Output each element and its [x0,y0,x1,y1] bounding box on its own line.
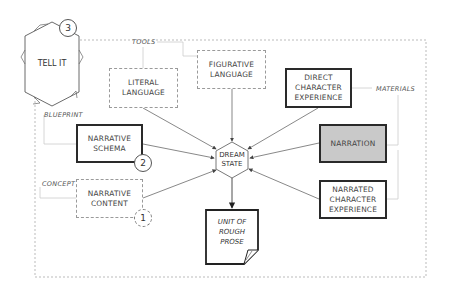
narration-node: NARRATION [319,124,387,163]
step-2-badge: 2 [134,154,152,172]
direct-character-experience-node: DIRECT CHARACTER EXPERIENCE [285,68,352,108]
dream-state-label: DREAM STATE [216,148,248,172]
figurative-language-node: FIGURATIVE LANGUAGE [197,50,266,89]
literal-language-node: LITERAL LANGUAGE [109,68,178,108]
tools-label: TOOLS [132,38,155,46]
narrative-schema-node: NARRATIVE SCHEMA [76,124,143,163]
rough-prose-label: UNIT OF ROUGH PROSE [206,214,258,250]
concept-label: CONCEPT [42,180,75,188]
tell-it-label: TELL IT [25,50,79,78]
materials-label: MATERIALS [376,85,415,93]
narrated-character-experience-node: NARRATED CHARACTER EXPERIENCE [319,180,387,219]
narrative-content-node: NARRATIVE CONTENT [76,179,143,218]
blueprint-label: BLUEPRINT [44,111,83,119]
step-1-badge: 1 [134,209,152,227]
step-3-badge: 3 [59,19,77,37]
